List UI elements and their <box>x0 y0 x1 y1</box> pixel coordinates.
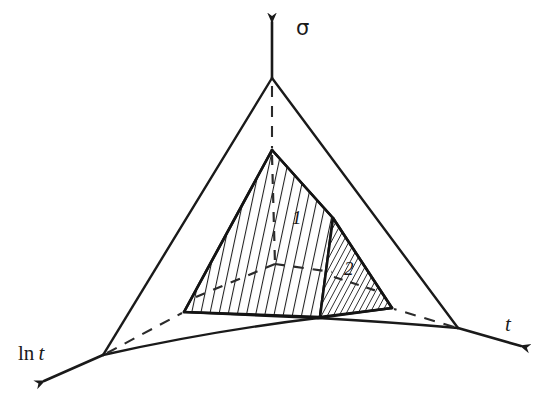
lnt-label-variable: t <box>39 341 45 365</box>
diagram-svg <box>0 0 555 411</box>
region-1-label: 1 <box>292 207 302 229</box>
figure-canvas: σ ln t t 1 2 <box>0 0 555 411</box>
outer-edge-base <box>103 318 458 355</box>
t-axis-label: t <box>505 312 511 337</box>
t-axis-line <box>458 328 521 346</box>
region-2-label: 2 <box>344 258 354 280</box>
region-2-shape[interactable] <box>320 218 392 317</box>
lnt-label-prefix: ln <box>18 341 39 365</box>
lnt-axis-line <box>44 355 103 381</box>
sigma-axis-label: σ <box>296 16 309 40</box>
lnt-axis-label: ln t <box>18 341 44 366</box>
